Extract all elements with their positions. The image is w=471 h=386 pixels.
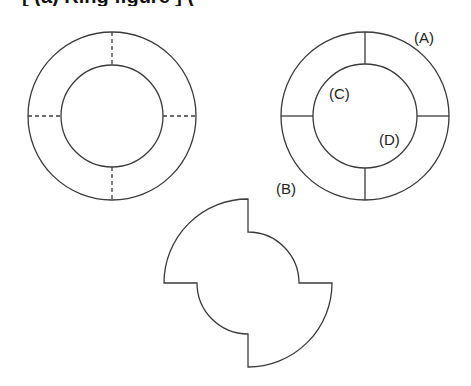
right-ring (281, 32, 449, 200)
right-ring-inner-circle (313, 64, 417, 168)
pinwheel-shape (164, 199, 332, 367)
diagram-canvas: (A) (B) (C) (D) (0, 0, 471, 386)
left-ring (28, 32, 196, 200)
label-d: (D) (379, 131, 400, 148)
label-b: (B) (276, 180, 296, 197)
label-c: (C) (329, 85, 350, 102)
left-ring-inner-circle (61, 65, 163, 167)
label-a: (A) (414, 29, 434, 46)
